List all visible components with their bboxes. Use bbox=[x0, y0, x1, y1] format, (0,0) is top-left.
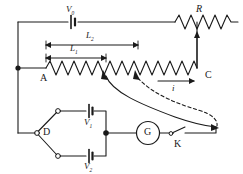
current-arrow-i bbox=[158, 78, 195, 84]
label-rheostat: R bbox=[196, 4, 202, 14]
label-current-i: i bbox=[172, 84, 175, 93]
label-terminal-c: C bbox=[205, 70, 212, 80]
label-switch-d: D bbox=[43, 127, 50, 137]
label-cell-v2: V2 bbox=[84, 162, 92, 173]
label-galvanometer: G bbox=[144, 127, 151, 137]
label-length-L1: L1 bbox=[70, 44, 78, 55]
key-switch-symbol bbox=[169, 127, 185, 135]
tap-lead-dashed bbox=[138, 78, 217, 126]
label-cell-v1: V1 bbox=[84, 118, 92, 129]
switch-d-to-left-rail-wire bbox=[18, 68, 35, 133]
slide-wire-symbol bbox=[46, 22, 197, 75]
label-length-L2: L2 bbox=[86, 31, 94, 42]
tap-lead-solid bbox=[101, 70, 219, 131]
label-key: K bbox=[174, 139, 181, 149]
circuit-diagram-figure: V0 R L2 L1 A C i D V1 V2 G K bbox=[0, 0, 243, 174]
driver-battery-symbol bbox=[71, 16, 75, 29]
left-rail-wire bbox=[18, 22, 46, 68]
label-driver-battery: V0 bbox=[66, 5, 74, 16]
rheostat-symbol bbox=[175, 15, 238, 29]
cell-v2-branch-wire bbox=[60, 133, 106, 156]
label-terminal-a: A bbox=[40, 73, 47, 83]
circuit-svg bbox=[0, 0, 243, 174]
cell-v1-branch-wire bbox=[60, 111, 106, 133]
cell-v1-symbol bbox=[89, 105, 93, 118]
